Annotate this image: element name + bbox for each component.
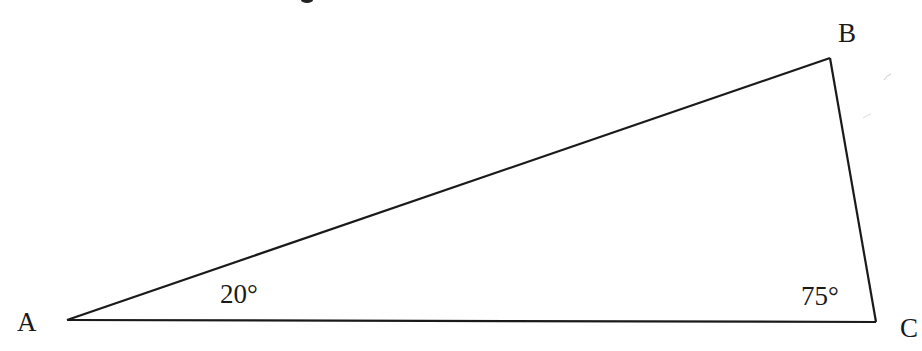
vertex-label-b: B bbox=[838, 18, 856, 48]
angle-label-c: 75° bbox=[801, 281, 839, 311]
stray-mark bbox=[863, 114, 871, 118]
triangle-diagram: A B C 20° 75° bbox=[0, 0, 922, 351]
vertex-label-a: A bbox=[17, 307, 37, 337]
side-ab bbox=[67, 58, 830, 320]
angle-label-a: 20° bbox=[220, 279, 258, 309]
vertex-label-c: C bbox=[900, 313, 918, 343]
cropped-mark bbox=[301, 0, 313, 3]
side-ac bbox=[67, 320, 876, 322]
diagram-canvas: A B C 20° 75° bbox=[0, 0, 922, 351]
stray-mark bbox=[884, 74, 891, 80]
